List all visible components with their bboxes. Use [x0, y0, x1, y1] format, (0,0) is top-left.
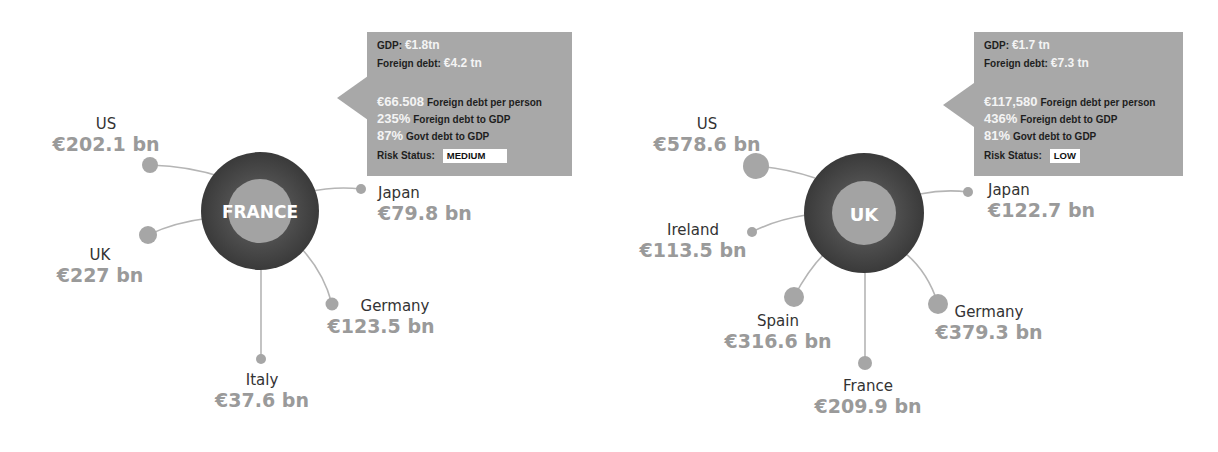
node-uk-ireland — [747, 227, 757, 237]
uk-label-japan: Japan €122.7 bn — [988, 182, 1095, 221]
govt-to-gdp-value: 81% — [984, 128, 1010, 143]
node-uk-japan — [963, 187, 973, 197]
country-name: Germany — [935, 304, 1042, 321]
link-uk-japan — [920, 191, 968, 194]
country-name: Japan — [378, 185, 472, 202]
uk-callout: GDP: €1.7 tn Foreign debt: €7.3 tn €117,… — [974, 32, 1183, 176]
france-label-italy: Italy €37.6 bn — [215, 372, 309, 411]
country-value: €379.3 bn — [935, 321, 1042, 343]
gdp-value: €1.8tn — [405, 38, 440, 52]
country-name: Japan — [988, 182, 1095, 199]
country-value: €316.6 bn — [724, 330, 831, 352]
uk-callout-pointer — [943, 83, 974, 127]
france-callout-pointer — [337, 76, 368, 120]
uk-label-us: US €578.6 bn — [653, 116, 760, 155]
node-uk-france — [858, 356, 872, 370]
debt-to-gdp-row: 235% Foreign debt to GDP — [377, 112, 510, 127]
france-label-japan: Japan €79.8 bn — [378, 185, 472, 224]
france-callout: GDP: €1.8tn Foreign debt: €4.2 tn €66.50… — [367, 32, 572, 176]
country-value: €578.6 bn — [653, 133, 760, 155]
risk-row: Risk Status:MEDIUM — [377, 148, 507, 163]
uk-label-germany: Germany €379.3 bn — [935, 304, 1042, 343]
country-value: €113.5 bn — [639, 239, 746, 261]
govt-to-gdp-value: 87% — [377, 128, 403, 143]
france-label-germany: Germany €123.5 bn — [327, 298, 434, 337]
country-name: US — [653, 116, 760, 133]
country-value: €79.8 bn — [378, 202, 472, 224]
country-name: Spain — [724, 313, 831, 330]
node-uk-spain — [784, 287, 804, 307]
per-person-row: €66.508 Foreign debt per person — [377, 95, 542, 110]
risk-status-badge: MEDIUM — [443, 149, 507, 163]
gdp-row: GDP: €1.8tn — [377, 38, 440, 53]
country-name: Italy — [215, 372, 309, 389]
foreign-debt-row: Foreign debt: €4.2 tn — [377, 56, 482, 71]
govt-to-gdp-row: 87% Govt debt to GDP — [377, 129, 489, 144]
france-label-uk: UK €227 bn — [57, 247, 144, 286]
debt-to-gdp-value: 436% — [984, 111, 1017, 126]
node-france-italy — [256, 354, 266, 364]
country-value: €37.6 bn — [215, 389, 309, 411]
link-france-germany — [298, 245, 332, 304]
per-person-value: €117,580 — [984, 94, 1038, 109]
country-value: €209.9 bn — [814, 395, 921, 417]
link-france-japan — [308, 188, 361, 192]
country-name: Germany — [327, 298, 434, 315]
govt-to-gdp-row: 81% Govt debt to GDP — [984, 129, 1096, 144]
link-uk-ireland — [752, 215, 806, 232]
foreign-debt-row: Foreign debt: €7.3 tn — [984, 56, 1089, 71]
foreign-debt-value: €7.3 tn — [1051, 56, 1089, 70]
debt-to-gdp-row: 436% Foreign debt to GDP — [984, 112, 1117, 127]
france-label-us: US €202.1 bn — [52, 116, 159, 155]
country-value: €227 bn — [57, 264, 144, 286]
risk-status-badge: LOW — [1050, 149, 1080, 163]
risk-row: Risk Status:LOW — [984, 148, 1080, 163]
country-value: €123.5 bn — [327, 315, 434, 337]
node-france-uk — [139, 226, 157, 244]
country-name: UK — [57, 247, 144, 264]
uk-label-spain: Spain €316.6 bn — [724, 313, 831, 352]
uk-label-france: France €209.9 bn — [814, 378, 921, 417]
france-hub-label: FRANCE — [222, 202, 298, 222]
uk-label-ireland: Ireland €113.5 bn — [639, 222, 746, 261]
per-person-value: €66.508 — [377, 94, 424, 109]
country-value: €202.1 bn — [52, 133, 159, 155]
country-value: €122.7 bn — [988, 199, 1095, 221]
debt-to-gdp-value: 235% — [377, 111, 410, 126]
country-name: France — [814, 378, 921, 395]
gdp-value: €1.7 tn — [1012, 38, 1050, 52]
link-france-uk — [148, 218, 210, 235]
uk-hub-label: UK — [850, 204, 879, 225]
per-person-row: €117,580 Foreign debt per person — [984, 95, 1155, 110]
node-uk-us — [743, 153, 769, 179]
node-france-us — [142, 157, 158, 173]
country-name: Ireland — [639, 222, 746, 239]
node-france-japan — [356, 184, 366, 194]
foreign-debt-value: €4.2 tn — [444, 56, 482, 70]
country-name: US — [52, 116, 159, 133]
gdp-row: GDP: €1.7 tn — [984, 38, 1050, 53]
